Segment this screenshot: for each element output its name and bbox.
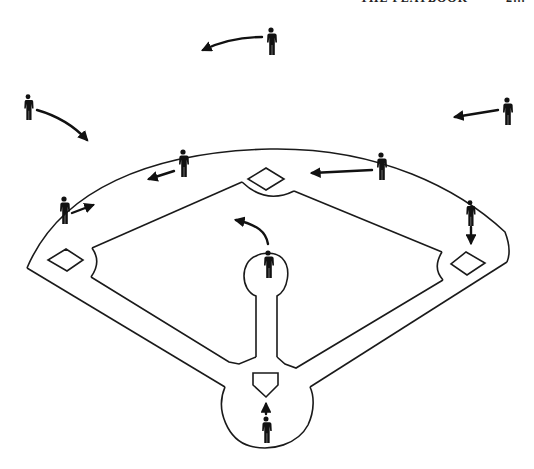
second-base [248,168,284,190]
player-left-fielder-icon [24,94,33,120]
player-center-fielder-icon [267,27,277,55]
arrow-shortstop [149,171,174,179]
player-first-base-icon [466,200,475,226]
third-base [48,249,83,271]
player-pitcher-icon [264,250,274,278]
arrow-second-baseman [312,170,372,173]
first-base-cutout [437,252,443,280]
left-foul-line-outer [27,268,225,387]
arrow-center-fielder [203,37,262,50]
third-base-cutout [91,248,97,277]
arrow-pitcher [236,220,268,244]
arrow-right-fielder-deep [455,110,498,117]
baseball-field-diagram [0,0,534,469]
player-third-base-icon [60,196,70,224]
player-right-fielder-icon [503,97,513,125]
right-foul-line-outer [310,262,507,387]
home-plate [253,373,278,397]
player-shortstop-icon [179,149,189,177]
infield-right-edge [294,191,442,252]
arrow-left-fielder-deep [37,110,87,140]
player-catcher-icon [262,416,272,443]
first-base [451,252,485,275]
pitchers-mound-path [244,253,288,357]
infield-left-edge [92,182,242,248]
player-second-baseman-icon [377,152,387,180]
